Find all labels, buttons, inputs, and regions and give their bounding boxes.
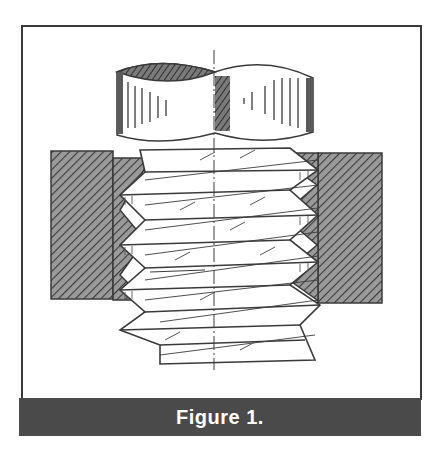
screw-head (117, 64, 313, 142)
screw-threads (120, 148, 320, 364)
nut-left-section (51, 151, 145, 300)
screw-thread-illustration (0, 0, 443, 453)
figure-caption: Figure 1. (176, 406, 264, 429)
caption-bar: Figure 1. (19, 398, 421, 436)
